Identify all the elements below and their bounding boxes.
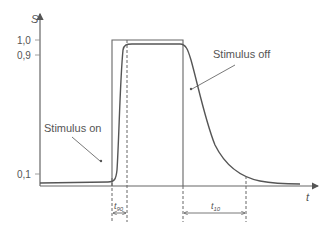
- tick-0-9: 0,9: [17, 50, 31, 61]
- response-time-diagram: S 1,0 0,9 0,1 t Stimulus on Stimulus off: [0, 0, 326, 232]
- guide-lines: [112, 40, 246, 222]
- tick-0-1: 0,1: [17, 169, 31, 180]
- y-axis: [35, 14, 40, 186]
- stimulus-off-arrow: [192, 65, 235, 89]
- stimulus-on-arrow: [72, 137, 100, 161]
- stimulus-on-arrow-tip: [100, 160, 102, 162]
- tick-1-0: 1,0: [17, 35, 31, 46]
- t10-label: t10: [211, 201, 221, 212]
- stimulus-on-label: Stimulus on: [44, 122, 101, 134]
- y-axis-label: S: [31, 13, 39, 25]
- diagram-canvas: S 1,0 0,9 0,1 t Stimulus on Stimulus off: [0, 0, 326, 232]
- response-curve: [40, 44, 300, 184]
- x-axis-label: t: [306, 191, 310, 203]
- stimulus-off-arrow-tip: [190, 88, 192, 90]
- t90-label: t90: [114, 201, 124, 212]
- stimulus-off-label: Stimulus off: [213, 48, 271, 60]
